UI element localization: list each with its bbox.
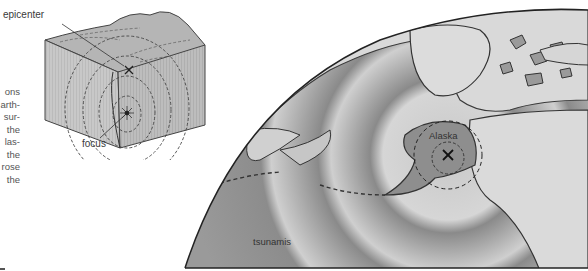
text-line: las- (0, 136, 20, 149)
text-line: rose (0, 161, 20, 174)
focus-label: focus (82, 138, 106, 149)
text-line: ons (0, 86, 20, 99)
page-edge-mark (0, 268, 5, 270)
alaska-label: Alaska (429, 130, 458, 141)
globe-tsunami-map (180, 0, 588, 271)
body-text-column: ons arth- sur- the las- the rose the (0, 86, 20, 186)
text-line: the (0, 124, 20, 137)
text-line: the (0, 174, 20, 187)
tsunamis-label: tsunamis (253, 236, 291, 247)
text-line: the (0, 149, 20, 162)
text-line: sur- (0, 111, 20, 124)
epicenter-label: epicenter (3, 9, 44, 20)
text-line: arth- (0, 99, 20, 112)
